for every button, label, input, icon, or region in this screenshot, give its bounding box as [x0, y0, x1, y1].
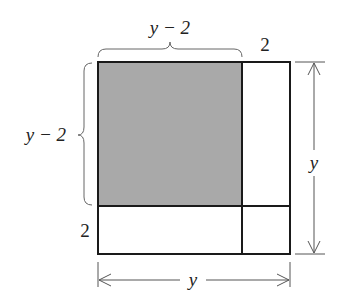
- top-right-label: 2: [260, 34, 270, 55]
- top-brace: [98, 42, 242, 57]
- bottom-dimension-label: y: [187, 269, 198, 290]
- top-brace-label: y − 2: [148, 17, 191, 38]
- right-dimension-label: y: [308, 152, 319, 173]
- right-strip: [242, 62, 290, 206]
- left-bottom-label: 2: [80, 220, 90, 241]
- shaded-square: [98, 62, 242, 206]
- bottom-strip: [98, 206, 242, 254]
- left-brace-label: y − 2: [24, 124, 67, 145]
- left-brace: [78, 63, 92, 205]
- corner-square: [242, 206, 290, 254]
- square-diagram: y − 2 2 y − 2 2 y y: [0, 0, 343, 306]
